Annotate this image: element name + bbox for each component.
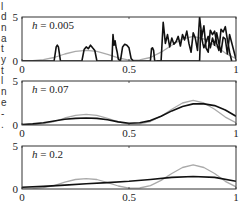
x-tick-label: 0.5 <box>122 63 136 75</box>
kernel-estimate-line <box>22 104 236 125</box>
kernel-estimate-line <box>157 17 232 61</box>
panel-3: 0500.51h = 0.2 <box>13 140 239 203</box>
x-tick-label: 0.5 <box>122 127 136 139</box>
y-tick-label: 5 <box>13 140 19 152</box>
x-tick-label: 1 <box>233 63 239 75</box>
x-tick-label: 0.5 <box>122 191 136 203</box>
panel-1: 0500.51h = 0.005 <box>13 11 239 75</box>
bandwidth-annotation: h = 0.2 <box>32 148 63 160</box>
kernel-estimate-line <box>22 30 236 61</box>
y-tick-label: 5 <box>13 75 19 87</box>
bandwidth-annotation: h = 0.07 <box>32 83 69 95</box>
bandwidth-annotation: h = 0.005 <box>32 19 74 31</box>
x-tick-label: 0 <box>19 191 25 203</box>
kernel-estimate-line <box>22 177 236 188</box>
x-tick-label: 1 <box>233 127 239 139</box>
kde-bandwidth-comparison-chart: 0500.51h = 0.0050500.51h = 0.070500.51h … <box>0 0 245 213</box>
x-tick-label: 0 <box>19 63 25 75</box>
x-tick-label: 1 <box>233 191 239 203</box>
panel-2: 0500.51h = 0.07 <box>13 75 239 139</box>
y-tick-label: 0 <box>13 119 19 131</box>
y-tick-label: 0 <box>13 183 19 195</box>
x-tick-label: 0 <box>19 127 25 139</box>
y-tick-label: 5 <box>13 11 19 23</box>
y-tick-label: 0 <box>13 55 19 67</box>
